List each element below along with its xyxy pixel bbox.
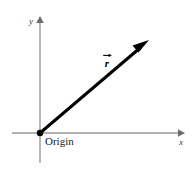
y-axis-label: y bbox=[28, 16, 33, 26]
origin-label: Origin bbox=[45, 135, 74, 147]
origin-dot bbox=[37, 130, 43, 136]
x-axis-label: x bbox=[178, 137, 183, 147]
diagram-canvas: x y r Origin bbox=[0, 0, 195, 170]
vector-diagram-figure: x y r Origin bbox=[0, 0, 195, 170]
vector-label: r bbox=[105, 57, 110, 69]
